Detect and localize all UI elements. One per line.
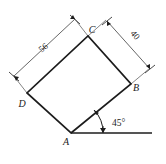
dimension-label-40: 40 [129,28,143,42]
angle-value-label: 45° [112,118,126,128]
figure-canvas: 56 40 [0,0,166,164]
dimension-group-56: 56 [9,15,88,93]
vertex-label-a: A [62,136,70,147]
angle-arc-group [94,110,106,133]
geometry-figure: 56 40 [0,0,166,164]
vertex-label-d: D [17,98,26,109]
dimension-line-40 [107,21,150,69]
vertex-label-c: C [89,24,96,35]
vertex-label-b: B [133,82,139,93]
dimension-label-56: 56 [37,41,51,55]
dimension-tick-56-start [9,72,19,81]
